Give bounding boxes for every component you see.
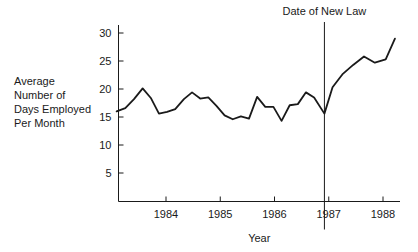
y-axis-tick-label: 20 [99,83,111,95]
data-series-layer [117,39,395,121]
x-axis-tick-label: 1987 [317,208,341,220]
x-axis-title: Year [248,232,271,244]
annotation-layer: Date of New Law [283,5,367,230]
x-axis: 19841985198619871988 [119,197,401,220]
data-line-series-0 [117,39,395,121]
y-axis-tick-label: 10 [99,139,111,151]
chart-container: Average Number of Days Employed Per Mont… [0,0,418,252]
x-axis-tick-label: 1985 [208,208,232,220]
y-axis-tick-label: 30 [99,27,111,39]
y-axis-tick-label: 5 [105,167,111,179]
x-axis-title-group: Year [248,232,271,244]
x-axis-tick-label: 1984 [154,208,178,220]
x-axis-tick-label: 1988 [371,208,395,220]
line-chart-plot: 51015202530 19841985198619871988 Date of… [0,0,418,252]
x-axis-tick-label: 1986 [262,208,286,220]
y-axis: 51015202530 [99,25,123,202]
y-axis-tick-label: 15 [99,111,111,123]
y-axis-tick-label: 25 [99,55,111,67]
annotation-label-date-of-new-law: Date of New Law [283,5,367,17]
